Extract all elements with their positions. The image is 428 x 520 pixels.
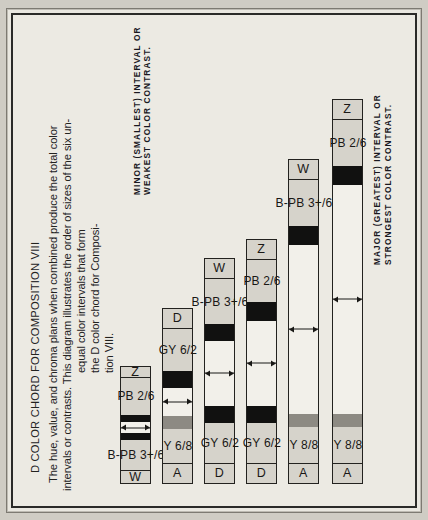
double-arrow-icon bbox=[205, 373, 234, 374]
bar-6-start-notation: Y 8/8 bbox=[333, 427, 362, 463]
caption-major-line1: MAJOR (GREATEST) INTERVAL OR bbox=[372, 94, 382, 265]
interval-bar-5[interactable]: A Y 8/8 B-PB 3+/6 W bbox=[288, 159, 319, 484]
plate-border: D COLOR CHORD FOR COMPOSITION VIII The h… bbox=[11, 13, 417, 508]
interval-bar-4[interactable]: D GY 6/2 PB 2/6 Z bbox=[246, 239, 277, 484]
bar-5-end-letter: W bbox=[289, 160, 318, 180]
bar-5-interval-gap bbox=[289, 245, 318, 414]
bar-4-end-letter: Z bbox=[247, 240, 276, 260]
bar-6-end-letter: Z bbox=[333, 100, 362, 120]
bar-4-band-end bbox=[247, 302, 276, 321]
interval-bar-6[interactable]: A Y 8/8 PB 2/6 Z bbox=[332, 99, 363, 484]
bar-4-start-letter: D bbox=[247, 463, 276, 483]
caption-major-line2: STRONGEST COLOR CONTRAST. bbox=[383, 104, 393, 265]
double-arrow-icon bbox=[163, 402, 192, 403]
bar-6-band-end bbox=[333, 166, 362, 185]
interval-bar-2[interactable]: A Y 6/8 GY 6/2 D bbox=[162, 308, 193, 484]
bar-3-interval-gap bbox=[205, 341, 234, 406]
bar-3-end-notation: B-PB 3+/6 bbox=[205, 279, 234, 324]
bar-1-start-notation: B-PB 3+/6 bbox=[121, 440, 150, 470]
bar-1-end-notation: PB 2/6 bbox=[121, 378, 150, 415]
bar-2-band-start bbox=[163, 416, 192, 429]
bar-3-end-letter: W bbox=[205, 259, 234, 279]
bar-2-end-letter: D bbox=[163, 309, 192, 329]
bar-5-end-notation: B-PB 3+/6 bbox=[289, 180, 318, 226]
bar-4-end-notation: PB 2/6 bbox=[247, 260, 276, 302]
bar-3-band-end bbox=[205, 324, 234, 341]
bar-4-interval-gap bbox=[247, 321, 276, 406]
bar-1-interval-gap bbox=[121, 422, 150, 432]
interval-bar-1[interactable]: W B-PB 3+/6 PB 2/6 Z bbox=[120, 366, 151, 484]
bar-4-band-start bbox=[247, 406, 276, 423]
bar-5-start-notation: Y 8/8 bbox=[289, 427, 318, 463]
text-block: D COLOR CHORD FOR COMPOSITION VIII The h… bbox=[15, 21, 107, 491]
bar-2-interval-gap bbox=[163, 388, 192, 416]
bar-2-start-letter: A bbox=[163, 463, 192, 483]
bar-5-start-letter: A bbox=[289, 463, 318, 483]
bar-1-band-start bbox=[121, 433, 150, 440]
caption-minor-line2: WEAKEST COLOR CONTRAST. bbox=[142, 46, 152, 195]
bar-6-band-start bbox=[333, 414, 362, 427]
interval-diagram: MINOR (SMALLEST) INTERVAL OR WEAKEST COL… bbox=[109, 15, 415, 506]
bar-5-band-end bbox=[289, 226, 318, 245]
paragraph-line-2: intervals or contrasts. This diagram ill… bbox=[61, 119, 73, 491]
bar-3-start-letter: D bbox=[205, 463, 234, 483]
paper-sheet: D COLOR CHORD FOR COMPOSITION VIII The h… bbox=[6, 8, 422, 513]
bar-2-start-notation: Y 6/8 bbox=[163, 429, 192, 463]
double-arrow-icon bbox=[121, 427, 150, 428]
double-arrow-icon bbox=[289, 329, 318, 330]
bar-4-start-notation: GY 6/2 bbox=[247, 423, 276, 463]
caption-minor-line1: MINOR (SMALLEST) INTERVAL OR bbox=[132, 26, 142, 195]
double-arrow-icon bbox=[247, 363, 276, 364]
bar-1-end-letter: Z bbox=[121, 367, 150, 378]
bar-3-band-start bbox=[205, 406, 234, 423]
page-background: D COLOR CHORD FOR COMPOSITION VIII The h… bbox=[0, 0, 428, 520]
interval-bar-3[interactable]: D GY 6/2 B-PB 3+/6 W bbox=[204, 258, 235, 484]
bar-3-start-notation: GY 6/2 bbox=[205, 423, 234, 463]
paragraph-line-3: equal color intervals that form bbox=[75, 229, 87, 373]
bar-5-band-start bbox=[289, 414, 318, 427]
double-arrow-icon bbox=[333, 299, 362, 300]
bar-6-start-letter: A bbox=[333, 463, 362, 483]
bar-6-interval-gap bbox=[333, 185, 362, 414]
paragraph-line-1: The hue, value, and chroma plans when co… bbox=[47, 126, 59, 483]
bar-6-end-notation: PB 2/6 bbox=[333, 120, 362, 166]
bar-2-band-end bbox=[163, 371, 192, 388]
bar-2-end-notation: GY 6/2 bbox=[163, 329, 192, 371]
bar-1-start-letter: W bbox=[121, 470, 150, 483]
page-title: D COLOR CHORD FOR COMPOSITION VIII bbox=[29, 242, 41, 473]
paragraph-line-4: the D color chord for Composi- bbox=[89, 224, 101, 373]
bar-1-band-end bbox=[121, 415, 150, 422]
